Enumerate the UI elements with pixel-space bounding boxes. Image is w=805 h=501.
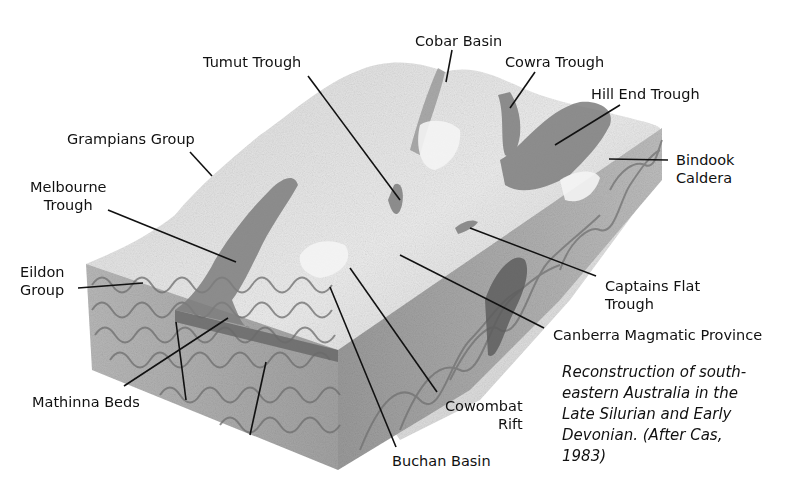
label-grampians-group: Grampians Group	[67, 130, 195, 148]
label-cowra-trough: Cowra Trough	[505, 53, 604, 71]
label-melbourne-trough: Melbourne Trough	[30, 178, 107, 214]
figure-caption: Reconstruction of south- eastern Austral…	[562, 362, 802, 467]
label-bindook-caldera: Bindook Caldera	[676, 151, 735, 187]
caption-line-3: Late Silurian and Early	[562, 404, 802, 425]
label-cobar-basin: Cobar Basin	[415, 32, 502, 50]
caption-line-4: Devonian. (After Cas,	[562, 425, 802, 446]
label-tumut-trough: Tumut Trough	[203, 53, 301, 71]
caption-line-1: Reconstruction of south-	[562, 362, 802, 383]
label-eildon-group: Eildon Group	[20, 263, 64, 299]
caption-line-2: eastern Australia in the	[562, 383, 802, 404]
block-diagram: Cobar Basin Cowra Trough Tumut Trough Hi…	[0, 0, 805, 501]
label-buchan-basin: Buchan Basin	[392, 452, 491, 470]
label-captains-flat-trough: Captains Flat Trough	[605, 277, 700, 313]
label-cowombat-rift: Cowombat Rift	[445, 397, 523, 433]
caption-line-5: 1983)	[562, 446, 802, 467]
label-canberra-magmatic-province: Canberra Magmatic Province	[553, 326, 762, 344]
label-mathinna-beds: Mathinna Beds	[32, 393, 140, 411]
label-hill-end-trough: Hill End Trough	[591, 85, 700, 103]
